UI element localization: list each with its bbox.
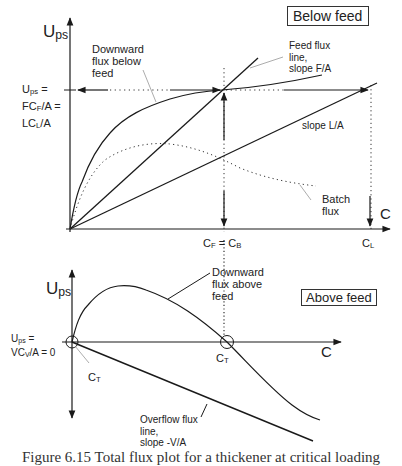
- leader-batch-flux: [300, 185, 311, 200]
- feed-flux-line-label: Feed flux line, slope F/A: [289, 40, 331, 75]
- ups-equals-zero-label: Ups = VCV/A = 0: [11, 333, 55, 361]
- ct-intersection-label: CT: [216, 352, 229, 367]
- batch-flux-curve: [70, 144, 316, 229]
- batch-flux-label: Batch flux: [322, 193, 350, 217]
- above-feed-label-box: Above feed: [301, 289, 377, 306]
- cl-tick-label: CL: [362, 237, 374, 252]
- slope-la-label: slope L/A: [302, 120, 344, 132]
- leader-overflow: [201, 404, 207, 417]
- cf-equals-cb-tick-label: CF = CB: [203, 237, 241, 252]
- leader-feed-flux: [250, 57, 283, 68]
- downward-flux-above-feed-curve: [72, 286, 320, 420]
- top-y-axis-title: Ups: [43, 22, 68, 42]
- downward-flux-above-feed-label: Downward flux above feed: [212, 266, 264, 302]
- bottom-x-axis-title: C: [321, 343, 332, 360]
- top-x-axis-title: C: [380, 205, 391, 222]
- leader-downward-flux-below: [143, 70, 156, 102]
- below-feed-label-box: Below feed: [287, 6, 369, 26]
- bottom-plot: [62, 240, 341, 441]
- ct-origin-label: CT: [88, 371, 101, 386]
- leader-downward-flux-above: [168, 273, 210, 299]
- bottom-y-axis-title: Ups: [46, 279, 71, 299]
- downward-flux-below-feed-label: Downward flux below feed: [92, 43, 144, 79]
- ups-equals-label: Ups = FCF/A = LCL/A: [22, 82, 61, 133]
- feed-flux-line: [70, 58, 258, 229]
- overflow-flux-line-label: Overflow flux line, slope -V/A: [140, 414, 198, 449]
- downward-flux-below-feed-curve: [70, 75, 322, 229]
- figure-caption: Figure 6.15 Total flux plot for a thicke…: [0, 449, 402, 466]
